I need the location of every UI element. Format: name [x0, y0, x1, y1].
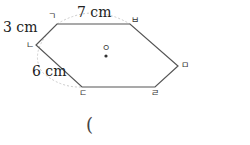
vertex-label-n: ㄴ	[26, 41, 34, 50]
diagram-canvas: 7 cm 3 cm 6 cm ㄱ ㅂ ㅁ ㄹ ㄷ ㄴ ㅇ (	[0, 0, 250, 145]
vertex-label-g: ㄱ	[48, 12, 56, 21]
top-edge-length: 7 cm	[77, 5, 111, 19]
lower-left-edge-length: 6 cm	[32, 64, 66, 78]
vertex-label-m: ㅁ	[181, 61, 189, 70]
vertex-label-b: ㅂ	[131, 16, 139, 25]
answer-blank-paren: (	[86, 116, 93, 134]
upper-left-edge-length: 3 cm	[3, 20, 37, 34]
vertex-label-d: ㄷ	[79, 89, 87, 98]
center-label-o: ㅇ	[102, 44, 110, 53]
center-point	[104, 54, 107, 57]
vertex-label-r: ㄹ	[151, 89, 159, 98]
